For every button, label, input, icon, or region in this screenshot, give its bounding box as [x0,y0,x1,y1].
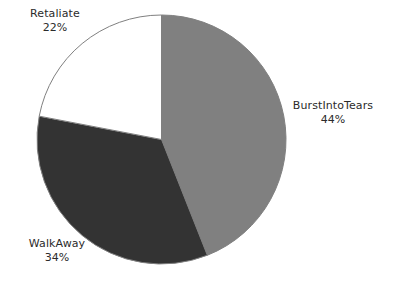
pie-label-retaliate-name: Retaliate [17,7,93,21]
pie-label-retaliate-percent: 22% [17,21,93,35]
pie-label-burstintotears: BurstIntoTears 44% [281,99,385,126]
pie-chart: Retaliate 22% BurstIntoTears 44% WalkAwa… [0,0,395,281]
pie-label-burstintotears-name: BurstIntoTears [281,99,385,113]
pie-label-burstintotears-percent: 44% [281,113,385,127]
pie-label-walkaway: WalkAway 34% [16,237,98,264]
pie-label-retaliate: Retaliate 22% [17,7,93,34]
pie-label-walkaway-percent: 34% [16,251,98,265]
pie-slices [37,15,286,264]
pie-label-walkaway-name: WalkAway [16,237,98,251]
